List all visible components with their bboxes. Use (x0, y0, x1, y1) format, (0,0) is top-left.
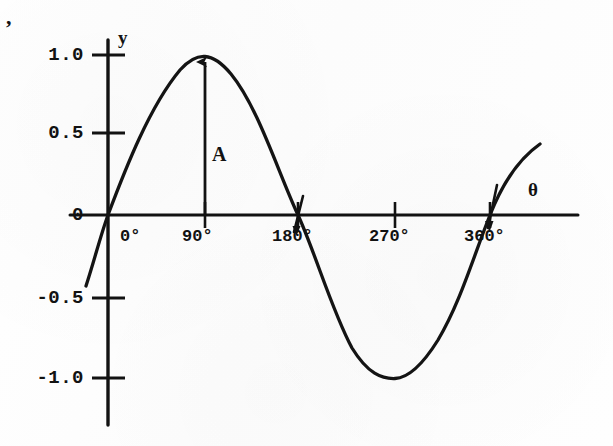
y-tick-label-neg0p5: -0.5 (14, 289, 84, 308)
amplitude-label: A (212, 144, 226, 164)
x-tick-label-90: 90° (182, 228, 213, 245)
y-axis-name-label: y (118, 28, 128, 47)
x-tick-label-0: 0° (120, 228, 140, 245)
y-tick-label-1p0: 1.0 (20, 46, 84, 65)
sine-curve (86, 56, 540, 378)
x-tick-label-360: 360° (464, 228, 505, 245)
sine-plot-svg (0, 0, 613, 446)
y-tick-label-0: 0 (20, 206, 84, 225)
y-tick-label-0p5: 0.5 (20, 124, 84, 143)
x-tick-label-180: 180° (272, 228, 313, 245)
x-axis-name-label: θ (528, 180, 538, 199)
figure-canvas: , (0, 0, 613, 446)
x-tick-label-270: 270° (369, 228, 410, 245)
y-tick-label-neg1p0: -1.0 (14, 369, 84, 388)
